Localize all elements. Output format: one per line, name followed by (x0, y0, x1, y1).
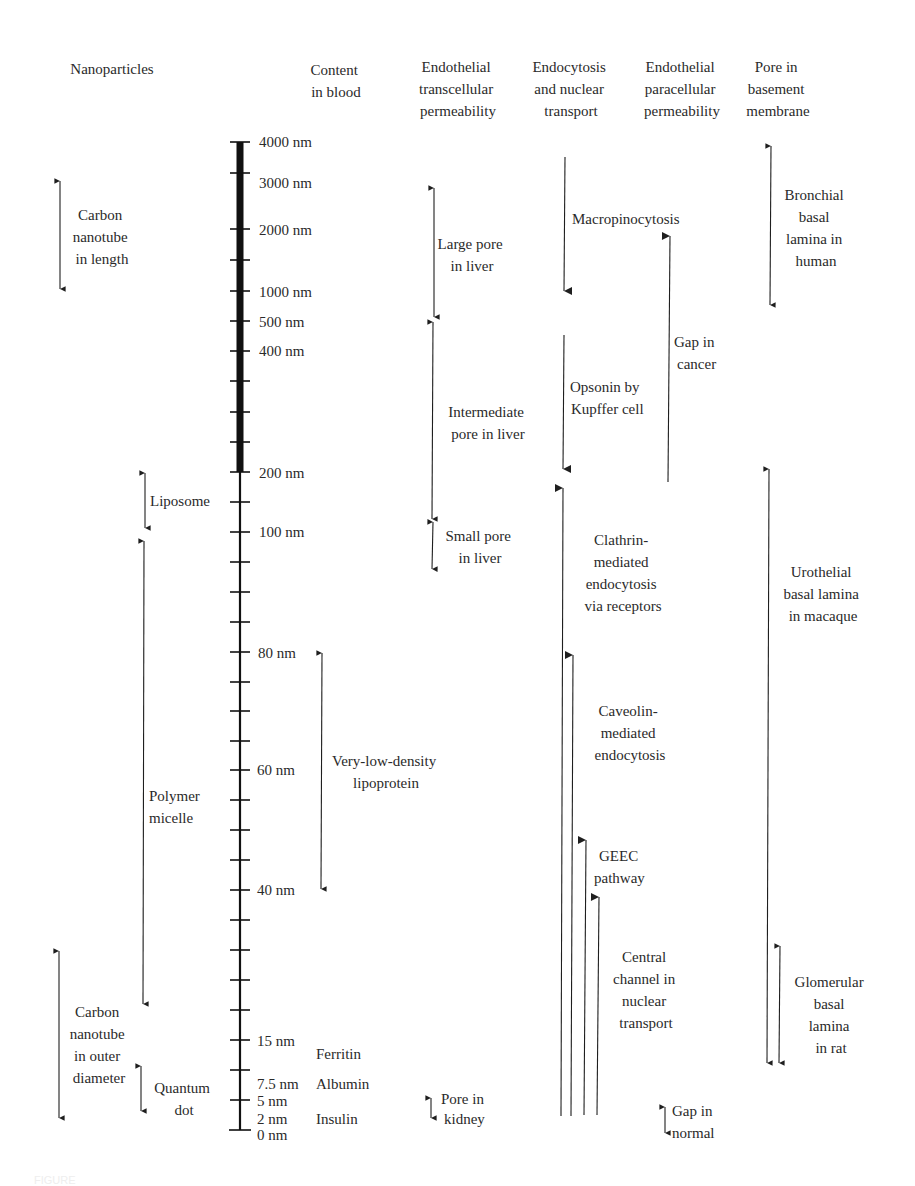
header-endothelial-transcellular: Endothelial transcellular permeability (419, 59, 497, 119)
range-small-pore-liver: Small pore in liver (432, 522, 515, 569)
tick-label-2: 2 nm (257, 1111, 288, 1127)
range-central-channel: Central channel in nuclear transport (597, 897, 679, 1115)
svg-text:Quantum dot: Quantum dot (154, 1080, 214, 1118)
header-endothelial-paracellular: Endothelial paracellular permeability (644, 59, 720, 119)
header-content-in-blood: Content in blood (310, 62, 361, 100)
label-albumin: Albumin (316, 1076, 370, 1092)
svg-text:Intermediate pore in l: Intermediate pore in liver (448, 404, 528, 442)
range-bronchial: Bronchial basal lamina in human (770, 146, 847, 305)
tick-label-40: 40 nm (257, 882, 295, 898)
double-arrow-icon (432, 322, 433, 519)
axis-tick-labels: 4000 nm 3000 nm 2000 nm 1000 nm 500 nm 4… (257, 134, 312, 1143)
nanoparticles-column: Carbon nanotube in length Liposome Polym… (59, 181, 214, 1118)
size-axis: 4000 nm 3000 nm 2000 nm 1000 nm 500 nm 4… (229, 134, 312, 1143)
double-arrow-icon (432, 522, 433, 569)
basement-column: Bronchial basal lamina in human Urotheli… (767, 146, 867, 1063)
tick-label-200: 200 nm (259, 465, 305, 481)
column-headers: Nanoparticles Content in blood Endotheli… (70, 59, 810, 119)
svg-text:Urothelial basal lamin: Urothelial basal lamina in macaque (783, 564, 862, 624)
label-ferritin: Ferritin (316, 1046, 361, 1062)
size-scale-diagram: Nanoparticles Content in blood Endotheli… (0, 0, 915, 1186)
tick-label-0: 0 nm (257, 1127, 288, 1143)
range-large-pore-liver: Large pore in liver (434, 188, 506, 317)
down-arrow-icon (564, 157, 565, 291)
svg-text:Macropinocytosis: Macropinocytosis (572, 211, 680, 227)
tick-label-3000: 3000 nm (259, 175, 312, 191)
paracellular-column: Gap in cancer Gap in normal (665, 236, 718, 1141)
svg-text:Very-low-density lipop: Very-low-density lipoprotein (332, 753, 440, 791)
range-quantum-dot: Quantum dot (141, 1066, 214, 1118)
range-macropinocytosis: Macropinocytosis (564, 157, 680, 291)
up-arrow-icon (597, 897, 599, 1115)
label-insulin: Insulin (316, 1111, 358, 1127)
header-nanoparticles: Nanoparticles (70, 61, 153, 77)
svg-text:Caveolin- mediated: Caveolin- mediated endocytosis (595, 703, 666, 763)
down-arrow-icon (563, 335, 564, 469)
tick-label-80: 80 nm (258, 645, 296, 661)
range-vldl: Very-low-density lipoprotein (321, 653, 440, 889)
svg-text:Carbon nanotube: Carbon nanotube in outer diameter (70, 1004, 129, 1086)
tick-label-400: 400 nm (259, 343, 305, 359)
svg-text:Opsonin by Kupffer cel: Opsonin by Kupffer cell (570, 379, 644, 417)
tick-label-5: 5 nm (257, 1093, 288, 1109)
range-pore-kidney: Pore in kidney (431, 1091, 488, 1127)
header-pore-basement: Pore in basement membrane (746, 59, 810, 119)
range-liposome: Liposome (145, 473, 210, 528)
endocytosis-column: Macropinocytosis Opsonin by Kupffer cell… (561, 157, 680, 1116)
tick-label-7-5: 7.5 nm (257, 1076, 299, 1092)
svg-text:Liposome: Liposome (150, 493, 210, 509)
range-gap-cancer: Gap in cancer (668, 236, 718, 482)
double-arrow-icon (143, 541, 144, 1004)
up-arrow-icon (561, 488, 563, 1116)
svg-text:Large pore in liver: Large pore in liver (438, 236, 507, 274)
up-arrow-icon (571, 655, 573, 1116)
svg-text:Central channel in: Central channel in nuclear transport (613, 949, 679, 1031)
tick-label-4000: 4000 nm (259, 134, 312, 150)
range-gap-normal: Gap in normal (665, 1103, 716, 1141)
svg-text:Pore in kidney: Pore in kidney (441, 1091, 488, 1127)
svg-text:Carbon nanotube: Carbon nanotube in length (73, 207, 132, 267)
double-arrow-icon (770, 146, 771, 305)
blood-content-column: Very-low-density lipoprotein Ferritin Al… (316, 653, 440, 1127)
svg-text:Glomerular basal: Glomerular basal lamina in rat (795, 974, 868, 1056)
tick-label-2000: 2000 nm (259, 222, 312, 238)
transcellular-column: Large pore in liver Intermediate pore in… (431, 188, 528, 1127)
double-arrow-icon (779, 946, 780, 1063)
tick-label-500: 500 nm (259, 314, 305, 330)
range-intermediate-pore-liver: Intermediate pore in liver (432, 322, 528, 519)
up-arrow-icon (584, 840, 586, 1115)
range-glomerular: Glomerular basal lamina in rat (779, 946, 867, 1063)
range-carbon-nanotube-length: Carbon nanotube in length (60, 181, 131, 289)
svg-text:Bronchial basal: Bronchial basal lamina in human (785, 187, 848, 269)
up-arrow-icon (668, 236, 670, 482)
svg-text:Gap in normal: Gap in normal (672, 1103, 716, 1141)
tick-label-100: 100 nm (259, 524, 305, 540)
tick-label-60: 60 nm (257, 762, 295, 778)
header-endocytosis-nuclear: Endocytosis and nuclear transport (532, 59, 609, 119)
range-opsonin-kupffer: Opsonin by Kupffer cell (563, 335, 644, 469)
double-arrow-icon (767, 469, 769, 1063)
double-arrow-icon (321, 653, 322, 889)
figure-caption-stub: FIGURE (34, 1174, 76, 1186)
range-carbon-nanotube-outer-diameter: Carbon nanotube in outer diameter (59, 951, 128, 1118)
tick-label-15: 15 nm (257, 1033, 295, 1049)
svg-text:Gap in cancer: Gap in cancer (674, 334, 718, 372)
tick-label-1000: 1000 nm (259, 284, 312, 300)
svg-text:Polymer micelle: Polymer micelle (149, 788, 204, 826)
svg-text:Clathrin- mediated: Clathrin- mediated endocytosis via recep… (584, 532, 661, 614)
range-polymer-micelle: Polymer micelle (143, 541, 204, 1004)
svg-text:Small pore in liver: Small pore in liver (445, 528, 514, 566)
svg-text:GEEC pathway: GEEC pathway (594, 848, 645, 886)
